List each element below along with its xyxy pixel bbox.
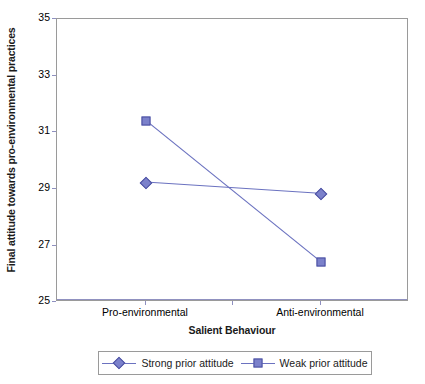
legend-label-strong-prior-attitude: Strong prior attitude (141, 357, 233, 369)
y-tick-label-27: 27 (8, 239, 50, 250)
square-marker-icon (253, 359, 262, 368)
series-lines (57, 19, 407, 300)
y-tick-label-35: 35 (8, 12, 50, 23)
x-tick-label-pro-environmental: Pro-environmental (102, 306, 188, 318)
x-tick-mark-center (232, 301, 233, 305)
legend-entry-strong-prior-attitude[interactable]: Strong prior attitude (102, 357, 233, 369)
y-tick-label-25: 25 (8, 295, 50, 306)
x-axis-title: Salient Behaviour (56, 324, 408, 336)
diamond-marker-icon (113, 357, 126, 370)
data-point-weak-prior-attitude-pro-environmental (141, 116, 150, 125)
y-tick-label-33: 33 (8, 69, 50, 80)
series-line-weak-prior-attitude (145, 120, 319, 261)
legend-key-weak (241, 357, 275, 369)
chart-figure: Final attitude towards pro-environmental… (0, 0, 425, 384)
y-tick-label-29: 29 (8, 182, 50, 193)
y-tick-mark-25 (52, 301, 56, 302)
legend-entry-weak-prior-attitude[interactable]: Weak prior attitude (241, 357, 368, 369)
legend-label-weak-prior-attitude: Weak prior attitude (280, 357, 368, 369)
series-line-strong-prior-attitude (145, 182, 319, 193)
chart-legend: Strong prior attitude Weak prior attitud… (98, 351, 372, 375)
x-tick-mark-anti-environmental (320, 301, 321, 305)
data-point-weak-prior-attitude-anti-environmental (317, 258, 326, 267)
y-tick-label-31: 31 (8, 125, 50, 136)
legend-key-strong (102, 357, 136, 369)
y-axis-ticks: 35 33 31 29 27 25 (0, 0, 50, 384)
plot-area (56, 18, 408, 301)
x-tick-label-anti-environmental: Anti-environmental (276, 306, 364, 318)
x-tick-mark-pro-environmental (145, 301, 146, 305)
